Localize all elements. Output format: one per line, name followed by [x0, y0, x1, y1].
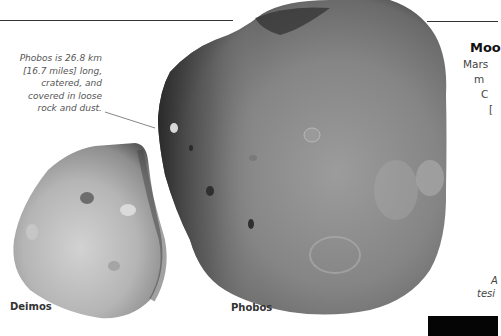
side-panel-note: A [491, 275, 498, 286]
caption-line: [16.7 miles] long, [10, 65, 102, 78]
side-panel-line: C [481, 88, 488, 100]
deimos-moon [13, 143, 163, 318]
caption-line: Phobos is 26.8 km [10, 52, 102, 65]
caption-line: rock and dust. [10, 102, 102, 115]
side-panel-title: Moo [470, 40, 501, 55]
side-panel-note: tesi [477, 288, 495, 299]
caption-line: cratered, and [10, 77, 102, 90]
phobos-label: Phobos [231, 302, 272, 313]
black-panel [428, 316, 498, 336]
side-panel-line: [ [489, 103, 493, 115]
deimos-label: Deimos [10, 301, 52, 312]
phobos-caption: Phobos is 26.8 km [16.7 miles] long, cra… [10, 52, 102, 115]
side-panel-line: Mars [463, 58, 488, 70]
side-panel-line: m [474, 73, 484, 85]
caption-line: covered in loose [10, 90, 102, 103]
phobos-moon [158, 0, 447, 315]
